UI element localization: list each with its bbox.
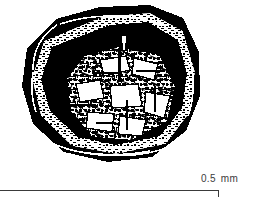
figure-panel: 0.5mm	[0, 0, 260, 199]
scale-bar-value: 0.5	[201, 173, 216, 184]
scale-bar: 0.5mm	[0, 168, 260, 199]
scale-bar-tick	[218, 190, 219, 197]
scale-bar-line	[0, 190, 219, 191]
scale-bar-label: 0.5mm	[201, 173, 238, 185]
scale-bar-unit: mm	[221, 173, 238, 184]
